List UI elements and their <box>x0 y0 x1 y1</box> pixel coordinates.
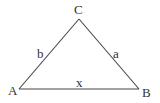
vertex-label-a: A <box>8 83 18 98</box>
triangle-diagram: A B C b a x <box>0 0 160 103</box>
side-label-x: x <box>76 75 83 90</box>
side-label-b: b <box>37 46 44 61</box>
side-label-a: a <box>113 46 119 61</box>
vertex-label-b: B <box>142 85 151 100</box>
side-ac <box>19 19 79 89</box>
side-cb <box>79 19 139 89</box>
vertex-label-c: C <box>74 2 83 17</box>
